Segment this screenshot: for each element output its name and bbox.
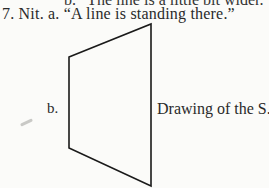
figure-label-b: b. <box>47 100 58 117</box>
figure-caption: Drawing of the S. <box>157 100 269 118</box>
quadrilateral-drawing <box>0 0 269 188</box>
